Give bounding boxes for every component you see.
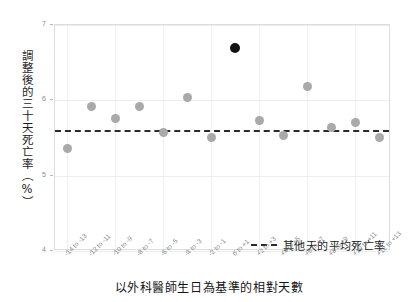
x-axis-tick-mark bbox=[258, 250, 259, 253]
x-axis-tick-mark bbox=[186, 250, 187, 253]
data-point bbox=[327, 123, 336, 132]
data-point bbox=[279, 131, 288, 140]
data-point bbox=[183, 93, 192, 102]
reference-line bbox=[55, 130, 389, 132]
data-point bbox=[207, 133, 216, 142]
x-axis-tick-mark bbox=[90, 250, 91, 253]
gridline-vertical bbox=[259, 25, 260, 249]
x-axis-tick-mark bbox=[330, 250, 331, 253]
x-axis-tick-mark bbox=[114, 250, 115, 253]
gridline-vertical bbox=[115, 25, 116, 249]
gridline-horizontal bbox=[55, 25, 389, 26]
x-axis-tick-mark bbox=[354, 250, 355, 253]
data-point bbox=[303, 82, 312, 91]
x-axis-tick-mark bbox=[282, 250, 283, 253]
data-point bbox=[135, 102, 144, 111]
x-axis-title: 以外科醫師生日為基準的相對天數 bbox=[0, 278, 418, 295]
y-axis-tick-mark bbox=[50, 175, 53, 176]
chart-figure: 調整後的三十天死亡率（%） 4567 其他天的平均死亡率 -14 to -13-… bbox=[0, 0, 418, 302]
data-point-highlighted bbox=[230, 43, 240, 53]
data-point bbox=[255, 116, 264, 125]
gridline-vertical bbox=[355, 25, 356, 249]
gridline-vertical bbox=[67, 25, 68, 249]
plot-area: 其他天的平均死亡率 bbox=[54, 24, 390, 250]
x-axis-tick-mark bbox=[162, 250, 163, 253]
x-axis-tick-mark bbox=[306, 250, 307, 253]
gridline-horizontal bbox=[55, 176, 389, 177]
y-axis-tick-mark bbox=[50, 99, 53, 100]
data-point bbox=[351, 118, 360, 127]
data-point bbox=[159, 128, 168, 137]
y-axis-tick-mark bbox=[50, 24, 53, 25]
gridline-horizontal bbox=[55, 100, 389, 101]
y-axis-title: 調整後的三十天死亡率（%） bbox=[11, 44, 33, 214]
x-axis-tick-mark bbox=[66, 250, 67, 253]
x-axis-tick-mark bbox=[138, 250, 139, 253]
data-point bbox=[111, 114, 120, 123]
x-axis-tick-mark bbox=[378, 250, 379, 253]
x-axis-tick-mark bbox=[234, 250, 235, 253]
x-axis-tick-mark bbox=[210, 250, 211, 253]
gridline-vertical bbox=[307, 25, 308, 249]
data-point bbox=[63, 144, 72, 153]
data-point bbox=[87, 102, 96, 111]
y-axis-tick-mark bbox=[50, 250, 53, 251]
data-point bbox=[375, 133, 384, 142]
